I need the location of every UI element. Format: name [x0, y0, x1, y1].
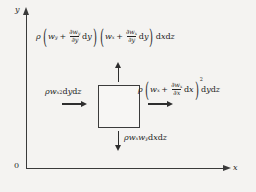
right-flux-arrow-icon	[148, 99, 174, 109]
right-flux-label: ρ ( wx + ∂wx ∂x dx )2 dydz	[138, 80, 220, 100]
differential-var: y	[87, 33, 92, 41]
origin-label: 0	[14, 162, 19, 170]
arrow-head	[115, 145, 121, 151]
fraction-denominator: ∂x	[172, 89, 181, 97]
momentum-flux-diagram: y x 0 ρ ( wy + ∂wy ∂y dy ) ( wx	[0, 0, 256, 192]
partial-derivative-fraction-2: ∂wx ∂y	[125, 29, 138, 43]
y-axis-arrow-icon	[23, 7, 29, 15]
velocity-term: w	[48, 33, 55, 41]
plus-operator: +	[161, 86, 168, 94]
partial-derivative-fraction: ∂wy ∂y	[68, 29, 81, 43]
plus-operator-2: +	[116, 33, 123, 41]
bottom-flux-label: ρ wx wy dxdz	[124, 134, 167, 142]
arrow-shaft	[148, 103, 169, 104]
paren-open-2: (	[100, 27, 104, 47]
paren-close-with-exponent: )2	[194, 80, 200, 100]
fraction-denominator: ∂y	[70, 36, 79, 44]
paren-open: (	[43, 27, 47, 47]
control-volume-square	[98, 85, 140, 128]
partial-derivative-fraction: ∂wx ∂x	[170, 82, 183, 96]
velocity-term: w	[50, 88, 57, 96]
arrow-head	[81, 101, 87, 107]
arrow-head	[115, 62, 121, 68]
fraction-numerator: ∂wy	[68, 29, 81, 36]
left-flux-arrow-icon	[62, 99, 88, 109]
differential-var-2: y	[144, 33, 149, 41]
arrow-head	[167, 101, 173, 107]
y-axis-label: y	[15, 6, 20, 14]
plus-operator: +	[59, 33, 66, 41]
paren-close: )	[93, 27, 97, 47]
paren-close-2: )	[149, 27, 153, 47]
top-flux-arrow-icon	[113, 62, 123, 82]
velocity-term-2: w	[105, 33, 112, 41]
tail-v2: z	[77, 88, 81, 96]
arrow-shaft	[62, 103, 83, 104]
paren-open: (	[145, 80, 149, 100]
rho-symbol: ρ	[36, 33, 41, 41]
tail-v2: z	[216, 86, 220, 94]
fraction-denominator-2: ∂y	[127, 36, 136, 44]
fraction-numerator-2: ∂wx	[125, 29, 138, 36]
x-axis-line	[26, 168, 224, 169]
rho-symbol: ρ	[138, 86, 143, 94]
group-exponent: 2	[200, 77, 203, 82]
top-flux-label: ρ ( wy + ∂wy ∂y dy ) ( wx + ∂wx ∂y dy ) …	[36, 27, 175, 47]
x-axis-label: x	[233, 164, 238, 172]
left-flux-label: ρ wx2 dydz	[45, 88, 82, 96]
velocity-term: w	[150, 86, 157, 94]
bottom-flux-arrow-icon	[113, 131, 123, 151]
tail-v2: z	[171, 33, 175, 41]
paren-close: )	[195, 80, 199, 100]
x-axis-arrow-icon	[223, 165, 231, 171]
velocity-term-1: w	[129, 134, 136, 142]
y-axis-line	[26, 14, 27, 169]
tail-v2: z	[163, 134, 167, 142]
fraction-numerator: ∂wx	[170, 82, 183, 89]
